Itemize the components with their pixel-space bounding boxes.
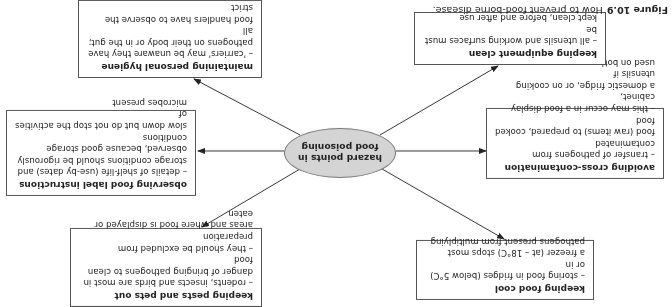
node-text: – 'carriers' may be unaware they have pa… (87, 0, 253, 59)
node-title: maintaining personal hygiene (87, 60, 253, 72)
node-title: observing food label instructions (15, 178, 187, 190)
node-title: keeping food cool (425, 282, 585, 294)
node-text: – rodents, insects and birds are most in… (79, 207, 253, 288)
node-keeping-equipment-clean: keeping equipment clean – all utensils a… (414, 12, 606, 65)
node-text: – storing food in fridges (below 5°C) or… (425, 235, 585, 281)
node-text: – details of shelf-life (use-by dates) a… (15, 96, 187, 177)
figure-label: Figure 10.9 (607, 5, 668, 16)
hub-label-line1: hazard points in (298, 153, 382, 164)
figure-caption-text: How to prevent food-borne disease. (433, 5, 603, 16)
figure-canvas: hazard points in food poisoning keeping … (0, 0, 672, 307)
figure-caption: Figure 10.9How to prevent food-borne dis… (433, 5, 668, 16)
node-avoiding-cross-contamination: avoiding cross-contamination – transfer … (486, 108, 664, 179)
node-title: avoiding cross-contamination (495, 161, 655, 173)
node-text: – transfer of pathogens from contaminate… (495, 56, 655, 160)
node-keeping-food-cool: keeping food cool – storing food in frid… (416, 240, 594, 300)
hub-hazard-points: hazard points in food poisoning (284, 128, 396, 178)
node-keeping-pests-out: keeping pests and pets out – rodents, in… (70, 228, 262, 307)
node-observing-food-label: observing food label instructions – deta… (6, 110, 196, 196)
node-text: – all utensils and working surfaces must… (423, 12, 597, 47)
node-maintaining-personal-hygiene: maintaining personal hygiene – 'carriers… (78, 0, 262, 78)
hub-label-line2: food poisoning (298, 142, 382, 153)
node-title: keeping equipment clean (423, 47, 597, 59)
node-title: keeping pests and pets out (79, 289, 253, 301)
